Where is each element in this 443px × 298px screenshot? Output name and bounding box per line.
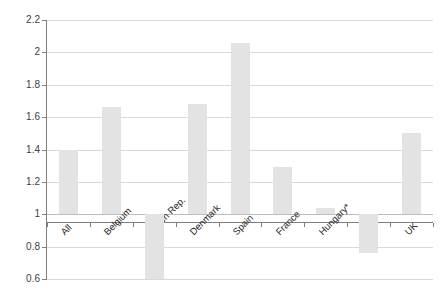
- x-tick-mark: [390, 223, 391, 227]
- bar-uk[interactable]: [402, 133, 421, 214]
- bar-all[interactable]: [59, 150, 78, 215]
- y-tick-mark: [42, 247, 47, 248]
- bar-spain[interactable]: [231, 43, 250, 215]
- y-tick-label: 1.4: [2, 144, 40, 155]
- bar-italy[interactable]: [359, 214, 378, 253]
- x-tick-mark: [133, 223, 134, 227]
- x-tick-mark: [304, 223, 305, 227]
- y-tick-mark: [42, 52, 47, 53]
- y-tick-mark: [42, 214, 47, 215]
- y-tick-mark: [42, 85, 47, 86]
- x-tick-mark: [176, 223, 177, 227]
- bar-czech-rep[interactable]: [145, 214, 164, 279]
- y-tick-mark: [42, 150, 47, 151]
- plot-area: [47, 20, 433, 279]
- y-tick-label: 1.8: [2, 79, 40, 90]
- y-tick-label: 2: [2, 46, 40, 57]
- y-tick-mark: [42, 20, 47, 21]
- gridline: [47, 20, 433, 21]
- y-tick-label: 1: [2, 208, 40, 219]
- x-tick-mark: [347, 223, 348, 227]
- bar-belgium[interactable]: [102, 107, 121, 214]
- y-tick-label: 0.6: [2, 273, 40, 284]
- x-tick-mark: [47, 223, 48, 227]
- y-tick-label: 1.6: [2, 111, 40, 122]
- bar-denmark[interactable]: [188, 104, 207, 214]
- y-tick-mark: [42, 182, 47, 183]
- bar-france[interactable]: [273, 167, 292, 214]
- y-tick-mark: [42, 279, 47, 280]
- x-tick-mark: [219, 223, 220, 227]
- y-tick-mark: [42, 117, 47, 118]
- x-tick-mark: [433, 223, 434, 227]
- x-tick-mark: [261, 223, 262, 227]
- y-tick-label: 2.2: [2, 14, 40, 25]
- y-tick-label: 1.2: [2, 176, 40, 187]
- gridline: [47, 279, 433, 280]
- y-tick-label: 0.8: [2, 241, 40, 252]
- x-tick-mark: [90, 223, 91, 227]
